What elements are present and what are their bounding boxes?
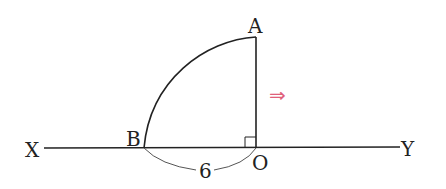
label-length-6: 6 bbox=[199, 159, 212, 183]
measure-arc-bo bbox=[144, 148, 196, 170]
right-angle-marker bbox=[245, 137, 256, 148]
label-o: O bbox=[252, 151, 268, 175]
label-x: X bbox=[25, 138, 40, 162]
line-xy bbox=[44, 147, 400, 148]
arc-ba bbox=[144, 37, 256, 148]
quarter-circle-diagram: A B O X Y 6 ⇒ bbox=[0, 0, 446, 189]
label-y: Y bbox=[400, 137, 415, 161]
right-double-arrow-icon: ⇒ bbox=[269, 83, 286, 107]
label-a: A bbox=[247, 14, 263, 38]
measure-arc-bo-right bbox=[214, 148, 256, 170]
label-b: B bbox=[126, 127, 141, 151]
